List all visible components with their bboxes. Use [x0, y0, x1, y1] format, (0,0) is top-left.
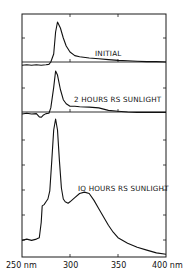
x-tick-350: 350 — [111, 261, 126, 270]
spectra-chart: INITIAL 2 HOURS RS SUNLIGHT IO HOURS RS … — [0, 0, 184, 279]
panel3-label: IO HOURS RS SUNLIGHT — [78, 184, 169, 193]
panel2-label: 2 HOURS RS SUNLIGHT — [74, 95, 162, 104]
x-tick-250: 250 nm — [6, 261, 37, 270]
x-tick-400: 400 nm — [152, 261, 183, 270]
x-tick-300: 300 — [63, 261, 78, 270]
panel1-label: INITIAL — [95, 49, 121, 58]
plot-frame — [22, 14, 166, 257]
y-ticks — [22, 38, 166, 240]
spectrum-initial — [22, 22, 166, 65]
